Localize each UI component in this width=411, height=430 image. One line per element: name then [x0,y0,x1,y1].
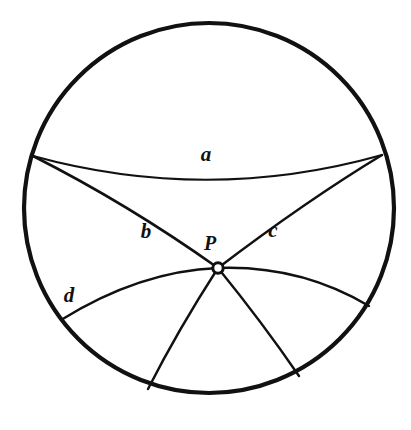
diagram-background [0,0,411,430]
figure-container: abcd P [0,0,411,430]
geodesic-d-label: d [64,283,75,307]
point-p-marker [213,263,223,273]
geodesic-a-label: a [201,142,212,166]
geodesic-b-label: b [141,219,152,243]
point-p-label: P [203,232,217,254]
hyperbolic-geometry-diagram: abcd P [0,0,411,430]
geodesic-c-label: c [268,218,278,242]
